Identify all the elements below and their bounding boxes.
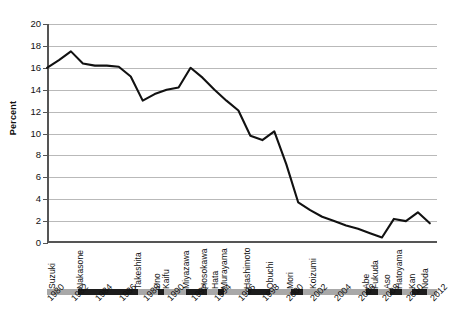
y-axis-tick-label: 2 <box>15 215 41 226</box>
y-axis-tick-label: 12 <box>15 106 41 117</box>
x-axis-ticks: 1980198219841986198819901992199419961998… <box>47 296 437 335</box>
y-axis-tick-label: 8 <box>15 149 41 160</box>
chart-root: Percent 20181614121086420 SuzukiNakasone… <box>0 0 455 335</box>
y-axis-tick-label: 4 <box>15 193 41 204</box>
pm-name-label: Takeshita <box>133 252 143 289</box>
pm-name-labels: SuzukiNakasoneTakeshitaUnoKaifuMiyazawaH… <box>47 232 437 289</box>
y-axis-tick-label: 0 <box>15 237 41 248</box>
y-axis-tick-label: 16 <box>15 62 41 73</box>
pm-name-label: Kaifu <box>161 269 171 289</box>
pm-name-label: Miyazawa <box>181 250 191 289</box>
pm-name-label: Koizumi <box>308 258 318 289</box>
y-axis-tick-label: 10 <box>15 128 41 139</box>
y-axis-tick-label: 20 <box>15 18 41 29</box>
y-axis-tick-label: 14 <box>15 84 41 95</box>
series-line <box>47 51 430 237</box>
line-series <box>47 24 437 243</box>
y-axis-tick-label: 6 <box>15 171 41 182</box>
plot-area <box>47 24 437 243</box>
y-axis-tick-label: 18 <box>15 40 41 51</box>
